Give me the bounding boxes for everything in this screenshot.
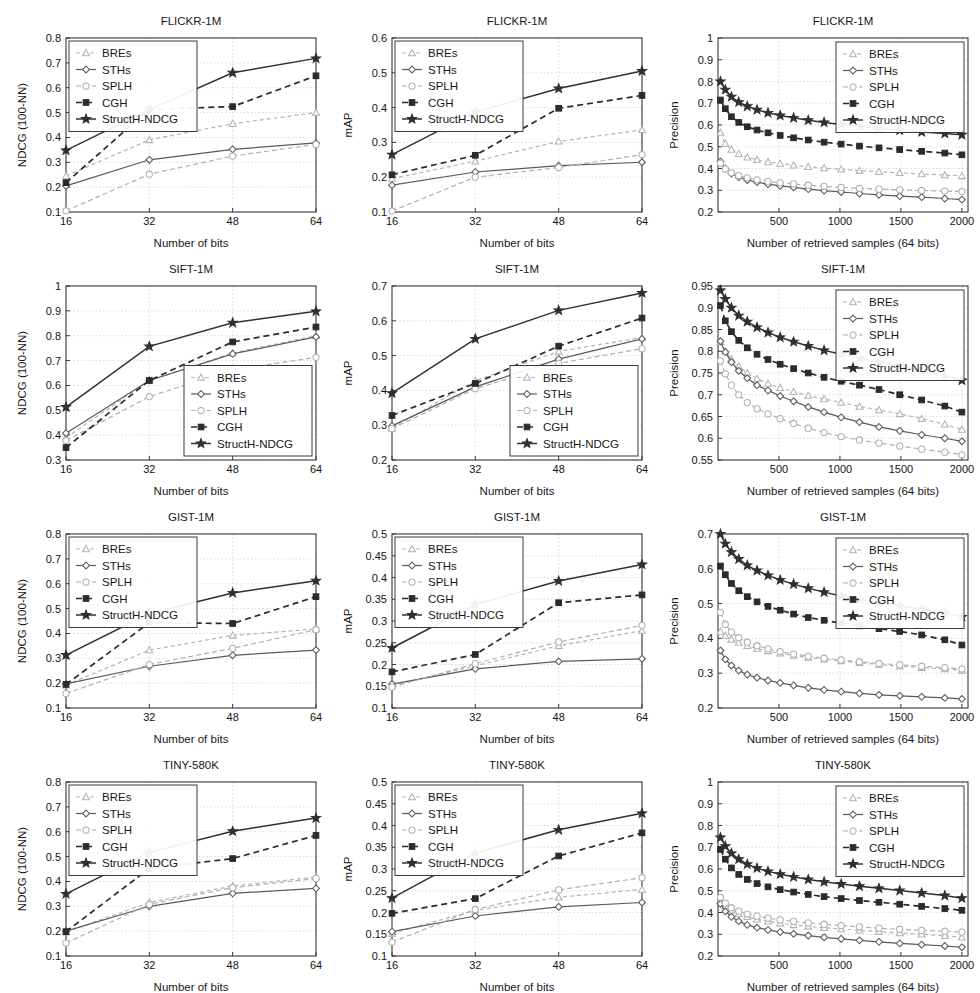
legend-label[interactable]: STHs	[869, 313, 898, 325]
legend-label[interactable]: CGH	[102, 841, 128, 853]
y-tick-label: 1	[55, 280, 61, 292]
legend-label[interactable]: StructH-NDCG	[869, 610, 945, 622]
legend-label[interactable]: STHs	[102, 808, 131, 820]
legend-label[interactable]: CGH	[102, 593, 128, 605]
legend-label[interactable]: STHs	[428, 808, 457, 820]
legend-label[interactable]: CGH	[869, 594, 895, 606]
legend-label[interactable]: BREs	[869, 296, 899, 308]
y-tick-label: 0.2	[698, 702, 713, 714]
legend-label[interactable]: StructH-NDCG	[102, 609, 178, 621]
y-tick-label: 0.6	[698, 432, 713, 444]
y-tick-label: 0.7	[698, 841, 713, 853]
y-tick-label: 0.3	[698, 184, 713, 196]
legend-label[interactable]: BREs	[543, 372, 573, 384]
y-tick-label: 0.1	[372, 206, 387, 218]
legend-label[interactable]: CGH	[428, 97, 454, 109]
legend-label[interactable]: StructH-NDCG	[428, 609, 504, 621]
legend-marker-splh	[850, 84, 856, 90]
legend-label[interactable]: BREs	[102, 47, 132, 59]
legend-label[interactable]: STHs	[869, 561, 898, 573]
legend-label[interactable]: CGH	[428, 841, 454, 853]
legend-label[interactable]: CGH	[869, 842, 895, 854]
x-tick-label: 2000	[950, 711, 974, 723]
x-axis-ticks: 500100015002000	[770, 952, 974, 971]
x-axis-ticks: 16324864	[60, 952, 322, 971]
legend-label[interactable]: SPLH	[869, 329, 899, 341]
x-axis-ticks: 16324864	[60, 704, 322, 723]
chart-panel-sift-precision: SIFT-1M0.550.60.650.70.750.80.850.90.955…	[656, 256, 980, 504]
legend-label[interactable]: STHs	[543, 388, 572, 400]
chart-panel-sift-map: SIFT-1M0.20.30.40.50.60.716324864Number …	[330, 256, 656, 504]
legend-label[interactable]: BREs	[102, 791, 132, 803]
legend-label[interactable]: CGH	[543, 421, 569, 433]
x-tick-label: 16	[386, 215, 398, 227]
legend: BREsSTHsSPLHCGHStructH-NDCG	[69, 537, 197, 628]
series-bres	[389, 627, 646, 688]
legend-label[interactable]: SPLH	[543, 405, 573, 417]
y-tick-label: 0.1	[372, 950, 387, 962]
legend-label[interactable]: SPLH	[869, 577, 899, 589]
legend-label[interactable]: SPLH	[428, 824, 458, 836]
legend-label[interactable]: SPLH	[102, 824, 132, 836]
legend-label[interactable]: StructH-NDCG	[543, 438, 619, 450]
legend-label[interactable]: STHs	[869, 809, 898, 821]
legend-label[interactable]: StructH-NDCG	[102, 857, 178, 869]
legend-label[interactable]: StructH-NDCG	[428, 113, 504, 125]
legend-label[interactable]: StructH-NDCG	[217, 438, 293, 450]
legend-marker-cgh	[83, 100, 89, 106]
y-tick-label: 0.8	[46, 32, 61, 44]
legend-label[interactable]: CGH	[869, 98, 895, 110]
legend-label[interactable]: StructH-NDCG	[428, 857, 504, 869]
legend-label[interactable]: SPLH	[102, 576, 132, 588]
legend-label[interactable]: STHs	[428, 560, 457, 572]
x-tick-label: 1000	[828, 215, 852, 227]
legend-label[interactable]: BREs	[428, 543, 458, 555]
legend-label[interactable]: STHs	[102, 64, 131, 76]
legend-label[interactable]: BREs	[217, 372, 247, 384]
legend-label[interactable]: SPLH	[102, 80, 132, 92]
legend-marker-cgh	[850, 349, 856, 355]
legend-label[interactable]: StructH-NDCG	[869, 858, 945, 870]
y-tick-label: 0.7	[698, 389, 713, 401]
y-tick-label: 0.85	[692, 324, 713, 336]
legend-label[interactable]: StructH-NDCG	[869, 114, 945, 126]
legend-label[interactable]: StructH-NDCG	[869, 362, 945, 374]
y-tick-label: 0.8	[698, 345, 713, 357]
legend-label[interactable]: SPLH	[428, 576, 458, 588]
y-tick-label: 0.4	[46, 875, 61, 887]
legend-label[interactable]: CGH	[428, 593, 454, 605]
legend-label[interactable]: SPLH	[428, 80, 458, 92]
x-axis-ticks: 16324864	[386, 208, 648, 227]
y-tick-label: 0.4	[372, 102, 387, 114]
legend-label[interactable]: STHs	[217, 388, 246, 400]
legend-label[interactable]: CGH	[217, 421, 243, 433]
y-tick-label: 0.5	[46, 107, 61, 119]
x-tick-label: 64	[310, 215, 322, 227]
legend-label[interactable]: SPLH	[869, 825, 899, 837]
legend-label[interactable]: CGH	[102, 97, 128, 109]
y-tick-label: 0.6	[46, 578, 61, 590]
legend-label[interactable]: STHs	[869, 65, 898, 77]
legend-label[interactable]: STHs	[102, 560, 131, 572]
legend-label[interactable]: BREs	[428, 47, 458, 59]
series-sths	[63, 885, 320, 935]
y-axis-label: mAP	[342, 608, 354, 633]
y-axis-ticks: 0.20.30.40.50.60.70.80.91	[698, 32, 722, 218]
legend-label[interactable]: BREs	[869, 544, 899, 556]
legend-label[interactable]: SPLH	[217, 405, 247, 417]
y-tick-label: 0.1	[46, 206, 61, 218]
legend: BREsSTHsSPLHCGHStructH-NDCG	[69, 41, 197, 132]
y-tick-label: 0.8	[46, 528, 61, 540]
series-sths	[389, 159, 646, 189]
legend-label[interactable]: StructH-NDCG	[102, 113, 178, 125]
y-tick-label: 0.3	[372, 615, 387, 627]
legend-label[interactable]: BREs	[869, 792, 899, 804]
legend-label[interactable]: CGH	[869, 346, 895, 358]
legend-label[interactable]: BREs	[102, 543, 132, 555]
y-axis-label: mAP	[342, 112, 354, 137]
legend-label[interactable]: SPLH	[869, 81, 899, 93]
legend-label[interactable]: BREs	[428, 791, 458, 803]
legend-label[interactable]: STHs	[428, 64, 457, 76]
legend-label[interactable]: BREs	[869, 48, 899, 60]
y-tick-label: 0.25	[366, 885, 387, 897]
